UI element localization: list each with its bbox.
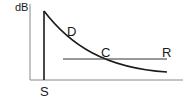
decay-curve [44,11,167,72]
label-crossing-point: C [101,45,110,60]
y-axis-label: dB [15,1,28,13]
label-reference-level: R [162,45,171,60]
label-source: S [40,84,49,99]
label-decay-curve: D [67,24,76,39]
decay-diagram: dB D C R S [0,0,187,102]
